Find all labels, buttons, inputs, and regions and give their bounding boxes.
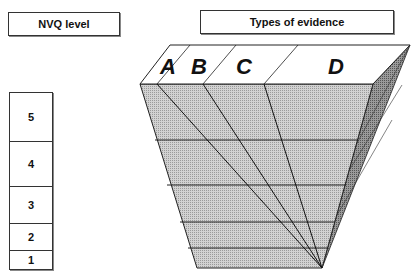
evidence-label-c: C xyxy=(236,54,253,79)
funnel-front-face xyxy=(140,84,373,268)
funnel-top-face xyxy=(140,45,410,84)
evidence-label-b: B xyxy=(191,54,207,79)
evidence-label-d: D xyxy=(328,54,344,79)
evidence-funnel-diagram: A B C D xyxy=(0,0,420,280)
evidence-label-a: A xyxy=(159,54,176,79)
